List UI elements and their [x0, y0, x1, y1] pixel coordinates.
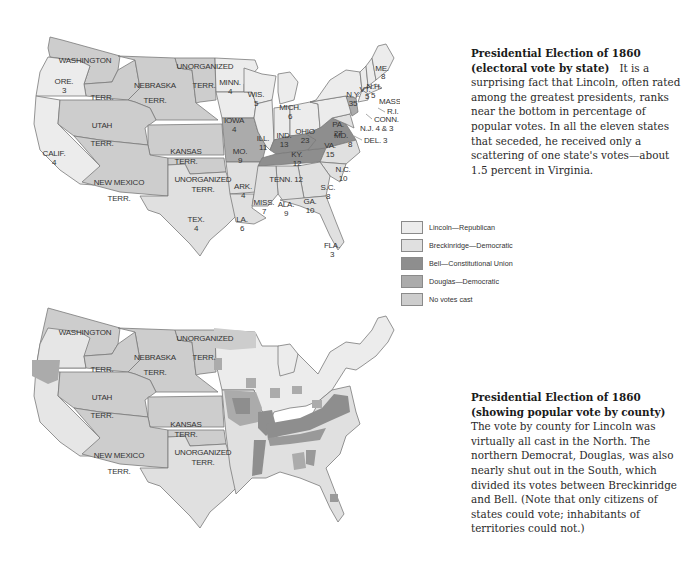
caption-body: It is a surprising fact that Lincoln, of…	[471, 62, 680, 176]
svg-text:MINN.: MINN.	[219, 78, 241, 87]
legend-label: No votes cast	[429, 295, 473, 304]
svg-text:VA.: VA.	[324, 141, 336, 150]
caption-electoral-vote: Presidential Election of 1860 (electoral…	[471, 46, 687, 177]
state-michigan	[278, 72, 298, 104]
map-legend: Lincoln—Republican Breckinridge—Democrat…	[401, 218, 581, 308]
svg-text:TERR.: TERR.	[107, 194, 130, 203]
svg-text:TERR.: TERR.	[90, 139, 113, 148]
svg-text:TERR.: TERR.	[90, 93, 113, 102]
svg-text:15: 15	[326, 150, 335, 159]
legend-item-lincoln: Lincoln—Republican	[401, 218, 581, 236]
svg-text:8: 8	[326, 192, 331, 201]
svg-text:LA.: LA.	[236, 215, 247, 224]
electoral-vote-map: WASHINGTON TERR. NEBRASKA TERR. UNORGANI…	[0, 0, 400, 290]
svg-text:S.C.: S.C.	[321, 183, 336, 192]
svg-text:TERR.: TERR.	[143, 96, 166, 105]
svg-text:5: 5	[371, 91, 376, 100]
caption-title: Presidential Election of 1860 (electoral…	[471, 47, 641, 74]
svg-text:KANSAS: KANSAS	[170, 147, 201, 156]
caption-title: Presidential Election of 1860 (showing p…	[471, 390, 687, 419]
legend-item-breckinridge: Breckinridge—Democratic	[401, 236, 581, 254]
svg-text:N.C.: N.C.	[335, 165, 350, 174]
svg-text:WIS.: WIS.	[248, 90, 265, 99]
svg-text:35: 35	[349, 99, 358, 108]
svg-text:ARK.: ARK.	[234, 182, 252, 191]
legend-label: Douglas—Democratic	[429, 277, 499, 286]
svg-text:10: 10	[306, 206, 315, 215]
svg-text:TERR.: TERR.	[174, 157, 197, 166]
svg-text:10: 10	[339, 174, 348, 183]
svg-text:ALA.: ALA.	[278, 200, 295, 209]
svg-text:7: 7	[262, 207, 267, 216]
legend-label: Lincoln—Republican	[429, 223, 495, 232]
svg-text:TERR.: TERR.	[191, 185, 214, 194]
legend-item-no-votes: No votes cast	[401, 290, 581, 308]
svg-text:TERR.: TERR.	[143, 368, 166, 377]
svg-text:IND.: IND.	[276, 131, 291, 140]
svg-text:TERR.: TERR.	[191, 458, 214, 467]
legend-swatch-bell	[401, 257, 423, 270]
svg-text:KANSAS: KANSAS	[170, 420, 201, 429]
svg-text:UNORGANIZED: UNORGANIZED	[175, 175, 232, 184]
svg-text:N.H.: N.H.	[366, 82, 381, 91]
svg-text:GA.: GA.	[303, 197, 316, 206]
svg-text:MD.: MD.	[334, 131, 348, 140]
svg-text:FLA.: FLA.	[324, 241, 340, 250]
county-map-graphic: WASHINGTON TERR. NEBRASKA TERR. UNORGANI…	[0, 288, 400, 564]
electoral-map-graphic: WASHINGTON TERR. NEBRASKA TERR. UNORGANI…	[0, 0, 400, 290]
svg-text:TERR.: TERR.	[174, 430, 197, 439]
legend-swatch-no-votes	[401, 293, 423, 306]
svg-text:ILL.: ILL.	[257, 134, 270, 143]
svg-text:6: 6	[240, 224, 245, 233]
svg-text:MO.: MO.	[233, 147, 248, 156]
svg-text:TERR.: TERR.	[90, 411, 113, 420]
svg-text:DEL. 3: DEL. 3	[364, 136, 388, 145]
legend-swatch-douglas	[401, 275, 423, 288]
svg-text:TERR.: TERR.	[192, 81, 215, 90]
svg-text:UNORGANIZED: UNORGANIZED	[177, 62, 234, 71]
legend-label: Bell—Constitutional Union	[429, 259, 513, 268]
svg-text:OHIO: OHIO	[295, 127, 315, 136]
svg-text:3: 3	[330, 250, 335, 259]
svg-text:IOWA: IOWA	[224, 116, 245, 125]
svg-text:ORE.: ORE.	[55, 77, 74, 86]
svg-text:NEW MEXICO: NEW MEXICO	[94, 451, 144, 460]
legend-swatch-breckinridge	[401, 239, 423, 252]
svg-text:WASHINGTON: WASHINGTON	[59, 328, 112, 337]
svg-text:TERR.: TERR.	[192, 353, 215, 362]
svg-text:NEW MEXICO: NEW MEXICO	[94, 178, 144, 187]
svg-text:TERR.: TERR.	[90, 365, 113, 374]
svg-text:MISS.: MISS.	[254, 198, 275, 207]
svg-text:MASS. 13: MASS. 13	[379, 97, 400, 106]
svg-text:CONN. 6: CONN. 6	[374, 115, 400, 124]
legend-label: Breckinridge—Democratic	[429, 241, 513, 250]
svg-text:12: 12	[293, 159, 302, 168]
svg-text:N.Y.: N.Y.	[346, 90, 360, 99]
northeast-labels: MASS. 13 R.I. 4 CONN. 6 N.J. 4 & 3 DEL. …	[354, 97, 400, 145]
county-vote-map: WASHINGTON TERR. NEBRASKA TERR. UNORGANI…	[0, 288, 400, 564]
legend-swatch-lincoln	[401, 221, 423, 234]
svg-text:13: 13	[280, 140, 289, 149]
svg-text:23: 23	[301, 136, 310, 145]
svg-text:NEBRASKA: NEBRASKA	[134, 81, 177, 90]
svg-text:PA.: PA.	[332, 120, 344, 129]
svg-text:TEX.: TEX.	[188, 215, 205, 224]
svg-text:UTAH: UTAH	[92, 393, 113, 402]
caption-county-vote: Presidential Election of 1860 (showing p…	[471, 390, 687, 536]
svg-text:8: 8	[381, 72, 386, 81]
svg-text:TENN. 12: TENN. 12	[269, 175, 303, 184]
legend-item-douglas: Douglas—Democratic	[401, 272, 581, 290]
svg-text:TERR.: TERR.	[107, 467, 130, 476]
svg-text:9: 9	[284, 209, 289, 218]
caption-body: The vote by county for Lincoln was virtu…	[471, 419, 687, 536]
svg-text:UNORGANIZED: UNORGANIZED	[177, 334, 234, 343]
svg-text:11: 11	[259, 143, 268, 152]
svg-text:UNORGANIZED: UNORGANIZED	[175, 448, 232, 457]
svg-text:MICH.: MICH.	[279, 103, 301, 112]
svg-text:UTAH: UTAH	[92, 121, 113, 130]
legend-item-bell: Bell—Constitutional Union	[401, 254, 581, 272]
svg-text:KY.: KY.	[291, 150, 302, 159]
svg-text:N.J. 4 & 3: N.J. 4 & 3	[360, 124, 394, 133]
svg-text:CALIF.: CALIF.	[43, 149, 66, 158]
svg-text:WASHINGTON: WASHINGTON	[59, 56, 112, 65]
